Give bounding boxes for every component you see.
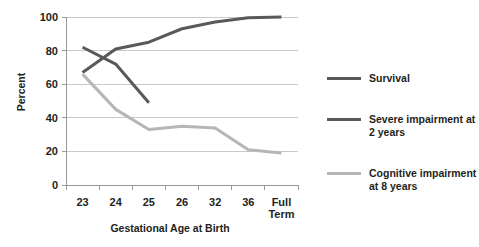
chart-legend: Survival Severe impairment at 2 years Co… xyxy=(327,72,479,221)
axis-lines xyxy=(66,17,298,185)
y-tick-label: 40 xyxy=(32,112,58,124)
y-tick-label: 20 xyxy=(32,145,58,157)
series-line-1 xyxy=(83,47,149,102)
y-tick-label: 100 xyxy=(32,11,58,23)
x-axis-title: Gestational Age at Birth xyxy=(40,222,300,234)
y-tick-label: 0 xyxy=(32,179,58,191)
x-tick-marks xyxy=(62,17,298,190)
series-line-2 xyxy=(83,74,282,153)
legend-label-survival: Survival xyxy=(369,72,410,85)
plot-area: 100806040200 232425263236Full Term Perce… xyxy=(0,0,320,247)
legend-label-cognitive-impairment: Cognitive impairment at 8 years xyxy=(369,167,479,193)
series-lines xyxy=(83,17,282,153)
legend-line-swatch-survival xyxy=(327,77,361,80)
legend-line-swatch-cognitive-impairment xyxy=(327,172,361,175)
y-axis-title: Percent xyxy=(15,62,27,122)
series-line-0 xyxy=(83,17,282,72)
legend-item-survival: Survival xyxy=(327,72,479,85)
chart-figure: 100806040200 232425263236Full Term Perce… xyxy=(0,0,479,247)
legend-item-severe-impairment: Severe impairment at 2 years xyxy=(327,113,479,139)
y-tick-label: 80 xyxy=(32,45,58,57)
legend-item-cognitive-impairment: Cognitive impairment at 8 years xyxy=(327,167,479,193)
y-tick-label: 60 xyxy=(32,78,58,90)
gridlines xyxy=(66,17,298,185)
legend-line-swatch-severe-impairment xyxy=(327,118,361,121)
x-tick-label: Full Term xyxy=(258,196,304,220)
legend-label-severe-impairment: Severe impairment at 2 years xyxy=(369,113,479,139)
